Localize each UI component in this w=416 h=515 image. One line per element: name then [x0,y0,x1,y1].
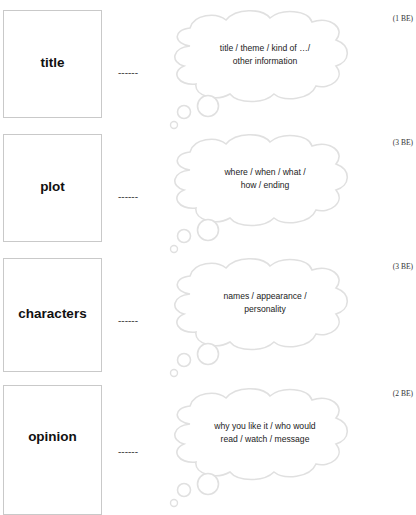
points-badge: (3 BE) [393,138,413,147]
hint-line-1: why you like it / who would [180,420,350,433]
thought-bubble: why you like it / who would read / watch… [160,384,360,504]
answer-blank: ------ [118,192,138,202]
thought-bubble: where / when / what / how / ending [160,130,360,250]
hint-line-2: read / watch / message [180,433,350,446]
thought-bubble: names / appearance / personality [160,254,360,374]
label-text: plot [40,179,65,194]
label-text: opinion [28,429,77,444]
answer-blank: ------ [118,447,138,457]
hint-line-1: where / when / what / [180,166,350,179]
thought-cloud-icon [160,254,360,378]
label-box-plot: plot [3,134,102,242]
section-opinion: opinion ------ why you like it / who wou… [0,385,416,509]
hint-text: where / when / what / how / ending [180,166,350,192]
points-badge: (2 BE) [393,389,413,398]
points-badge: (1 BE) [393,14,413,23]
thought-cloud-icon [160,6,360,130]
points-badge: (3 BE) [393,262,413,271]
section-characters: characters ------ names / appearance / p… [0,258,416,382]
hint-line-2: other information [180,55,350,68]
section-plot: plot ------ where / when / what / how / … [0,134,416,258]
thought-cloud-icon [160,130,360,254]
label-text: title [40,55,64,70]
thought-cloud-icon [160,384,360,508]
hint-line-2: personality [180,303,350,316]
label-box-opinion: opinion [3,385,102,515]
section-title: title ------ title / theme / kind of …/ … [0,10,416,134]
hint-line-1: names / appearance / [180,290,350,303]
label-text: characters [18,306,86,321]
label-box-characters: characters [3,258,102,372]
label-box-title: title [3,10,102,118]
thought-bubble: title / theme / kind of …/ other informa… [160,6,360,126]
hint-text: names / appearance / personality [180,290,350,316]
hint-line-2: how / ending [180,179,350,192]
answer-blank: ------ [118,68,138,78]
hint-line-1: title / theme / kind of …/ [180,42,350,55]
answer-blank: ------ [118,316,138,326]
hint-text: why you like it / who would read / watch… [180,420,350,446]
hint-text: title / theme / kind of …/ other informa… [180,42,350,68]
